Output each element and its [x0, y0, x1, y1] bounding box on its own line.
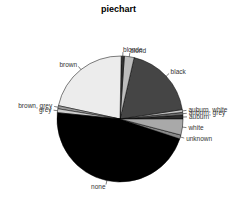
slice-label: grey — [39, 106, 52, 114]
label-leader-line — [166, 73, 169, 76]
label-leader-line — [182, 127, 186, 128]
label-leader-line — [54, 110, 58, 111]
slice-label: white — [187, 124, 204, 131]
pie-chart: auburnauburn, greyauburn, whiteblackblon… — [0, 0, 237, 217]
label-leader-line — [182, 110, 186, 111]
slice-label: auburn, white — [188, 106, 227, 113]
label-leader-line — [180, 137, 184, 138]
label-leader-line — [54, 106, 58, 107]
label-leader-line — [78, 66, 80, 69]
slice-label: blonde — [123, 46, 143, 53]
slice-label: unknown — [186, 135, 212, 142]
label-leader-line — [106, 181, 107, 185]
slice-label: black — [171, 68, 187, 75]
slice-label: none — [91, 183, 106, 190]
slice-label: brown — [59, 61, 77, 68]
